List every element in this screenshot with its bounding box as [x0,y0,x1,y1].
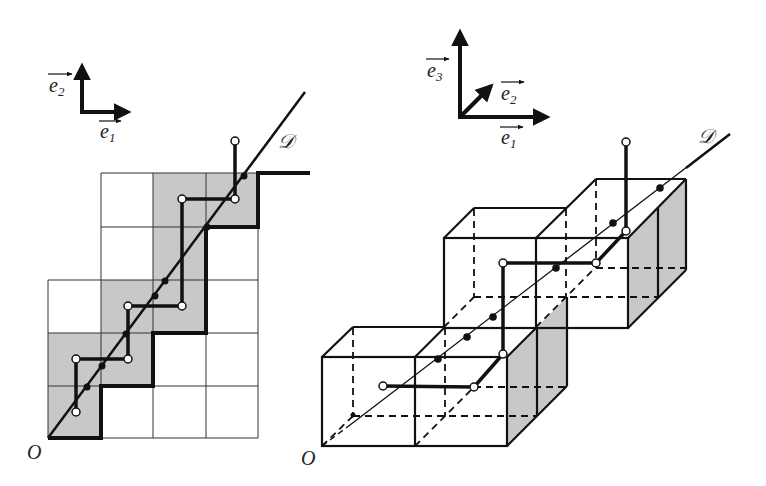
diagram-canvas: e2 e1 [0,0,766,486]
e2-label: e2 [501,82,517,107]
white-points-3d [379,138,630,391]
e1-label: e1 [100,120,115,145]
left-axes: e2 e1 [48,66,128,145]
e2-label: e2 [49,74,65,99]
line-d-hidden [322,425,350,446]
e1-label: e1 [501,126,516,151]
right-axes: e3 e2 e1 [426,32,547,151]
right-figure: e3 e2 e1 [301,32,730,469]
line-d-label: 𝒟 [278,129,298,153]
e3-label: e3 [427,59,443,84]
e2-axis-arrow-icon [461,86,491,116]
origin-label: O [301,447,315,469]
left-figure: e2 e1 [27,66,310,463]
origin-label: O [27,441,41,463]
